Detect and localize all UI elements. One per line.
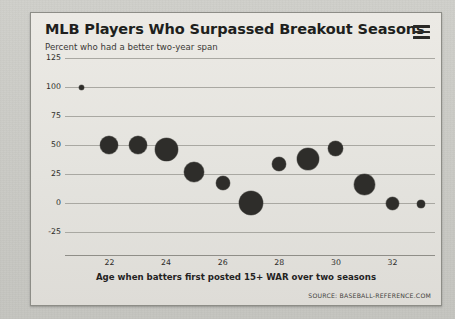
data-point-age-28[interactable]: [272, 157, 286, 171]
scatter-plot: 1251007550250-25222426283032Age when bat…: [31, 13, 441, 305]
x-axis-line: [65, 255, 435, 256]
gridline-y-75: [65, 116, 435, 117]
y-axis-tick-75: 75: [33, 111, 61, 120]
data-point-age-21[interactable]: [79, 85, 84, 90]
x-axis-tick-30: 30: [321, 258, 351, 267]
source-credit: SOURCE: BASEBALL-REFERENCE.COM: [308, 292, 431, 299]
data-point-age-24[interactable]: [155, 138, 178, 161]
x-axis-tick-26: 26: [208, 258, 238, 267]
gridline-y--25: [65, 232, 435, 233]
data-point-age-27[interactable]: [239, 191, 263, 215]
data-point-age-23[interactable]: [129, 136, 147, 154]
data-point-age-31[interactable]: [354, 174, 375, 195]
gridline-y-125: [65, 58, 435, 59]
chart-card: MLB Players Who Surpassed Breakout Seaso…: [30, 12, 442, 306]
gridline-y-25: [65, 174, 435, 175]
x-axis-tick-22: 22: [94, 258, 124, 267]
y-axis-tick-50: 50: [33, 140, 61, 149]
data-point-age-22[interactable]: [100, 136, 118, 154]
data-point-age-30[interactable]: [328, 141, 343, 156]
data-point-age-32[interactable]: [386, 197, 399, 210]
data-point-age-33[interactable]: [417, 200, 425, 208]
data-point-age-25[interactable]: [184, 162, 204, 182]
y-axis-tick--25: -25: [33, 227, 61, 236]
y-axis-tick-25: 25: [33, 169, 61, 178]
gridline-y-50: [65, 145, 435, 146]
data-point-age-29[interactable]: [297, 148, 319, 170]
x-axis-tick-28: 28: [264, 258, 294, 267]
x-axis-tick-32: 32: [378, 258, 408, 267]
y-axis-tick-0: 0: [33, 198, 61, 207]
data-point-age-26[interactable]: [216, 176, 230, 190]
x-axis-tick-24: 24: [151, 258, 181, 267]
gridline-y-100: [65, 87, 435, 88]
y-axis-tick-125: 125: [33, 53, 61, 62]
y-axis-tick-100: 100: [33, 82, 61, 91]
screenshot-background: MLB Players Who Surpassed Breakout Seaso…: [0, 0, 455, 319]
x-axis-label: Age when batters first posted 15+ WAR ov…: [31, 272, 441, 282]
